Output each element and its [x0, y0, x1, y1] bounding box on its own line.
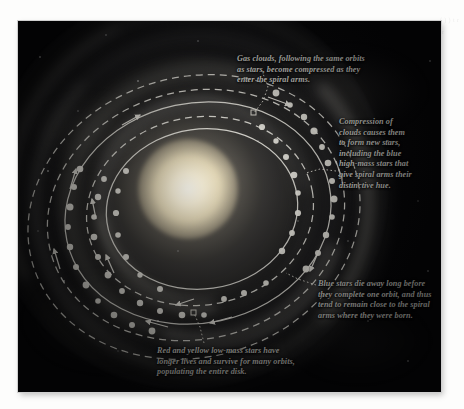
star-dot: [115, 188, 120, 193]
star-dot: [73, 264, 79, 270]
star-dot: [137, 300, 143, 306]
star-dot: [101, 176, 107, 182]
star-dot: [291, 172, 298, 179]
star-dot: [91, 234, 98, 241]
caption-gas-clouds: Gas clouds, following the same orbits as…: [237, 54, 387, 86]
star-dot: [83, 282, 90, 289]
star-dot: [289, 230, 295, 236]
star-dot: [295, 190, 301, 196]
caption-blue-stars: Blue stars die away long before they com…: [318, 279, 441, 321]
scanner-bleed-text: ( ) ) t r ir: [440, 14, 464, 224]
star-dot: [65, 224, 71, 230]
star-dot: [323, 232, 329, 238]
orbit-arrow-inner-bottom: [176, 299, 194, 305]
star-dot: [319, 144, 325, 150]
galaxy-photo-plate: Gas clouds, following the same orbits as…: [18, 21, 441, 392]
star-dot: [77, 166, 84, 173]
star-dot: [111, 312, 118, 319]
star-dot: [310, 127, 317, 134]
star-dot: [71, 184, 77, 190]
star-dot: [329, 178, 335, 184]
leader-anchor-red: [191, 310, 196, 315]
orbit-arrow-left-1: [54, 249, 60, 269]
star-dot: [95, 254, 101, 260]
leader-line-red-stars: [194, 313, 204, 343]
star-dot: [287, 102, 293, 108]
star-dot: [263, 280, 269, 286]
star-dot: [149, 328, 156, 335]
star-dot: [67, 204, 74, 211]
star-dot: [95, 194, 101, 200]
star-dot: [259, 124, 265, 130]
star-dot: [301, 114, 307, 120]
star-dot: [137, 272, 142, 277]
star-dot: [129, 322, 135, 328]
star-dot: [279, 248, 285, 254]
caption-red-stars: Red and yellow low-mass stars have longe…: [157, 346, 317, 378]
star-dot: [113, 210, 119, 216]
star-dot: [201, 312, 207, 318]
star-dot: [91, 214, 97, 220]
leader-line-compression: [306, 169, 336, 173]
star-dot: [241, 290, 247, 296]
star-dot: [123, 168, 129, 174]
caption-compression: Compression of clouds causes them to for…: [339, 117, 441, 191]
star-dot: [67, 244, 73, 250]
star-dot: [123, 254, 129, 260]
star-dot: [221, 296, 227, 302]
star-dot: [331, 196, 338, 203]
star-dot: [105, 272, 112, 279]
star-dot: [115, 232, 121, 238]
leader-line-blue-stars: [286, 273, 316, 285]
star-dot: [315, 250, 321, 256]
star-dot: [283, 154, 289, 160]
orbit-ring-innermost: [96, 116, 308, 301]
star-dot: [303, 266, 310, 273]
orbit-arrow-top-right: [268, 97, 290, 105]
star-dot: [273, 138, 278, 143]
star-dot: [329, 214, 335, 220]
orbit-arrow-bottom-1: [210, 317, 232, 323]
star-dot: [119, 288, 125, 294]
star-dot: [295, 210, 301, 216]
star-dot: [325, 160, 332, 167]
star-dot: [157, 286, 163, 292]
orbit-arrow-top-left: [122, 115, 140, 125]
figure-page: ( ) ) t r ir: [0, 0, 464, 409]
star-dot: [95, 298, 101, 304]
star-dot: [179, 312, 186, 319]
star-dot: [157, 308, 163, 314]
star-dot: [273, 90, 280, 97]
